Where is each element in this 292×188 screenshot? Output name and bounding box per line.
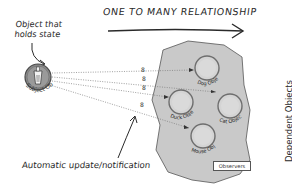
note-pointer-arrow xyxy=(32,43,44,64)
one-to-many-arrow xyxy=(108,30,243,32)
subject-note-line2: holds state xyxy=(14,29,62,39)
notification-note: Automatic update/notification xyxy=(21,160,150,170)
connector-label: 8 xyxy=(141,66,145,73)
subject-note-line1: Object that xyxy=(15,19,63,29)
dependents-label: Dependent Objects xyxy=(284,92,292,162)
notification-pointer-arrow xyxy=(118,117,135,158)
observers-label-box: Observers xyxy=(213,161,251,171)
diagram-title: ONE TO MANY RELATIONSHIP xyxy=(102,6,257,17)
connector-label: 8 xyxy=(142,75,146,82)
connector-label: 8 xyxy=(142,84,146,91)
subject-note: Object that holds state xyxy=(14,19,63,39)
connector-label: 8 xyxy=(140,101,144,108)
